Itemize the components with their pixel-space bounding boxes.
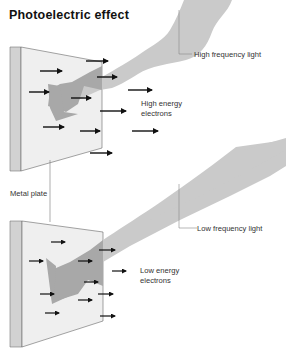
low-frequency-panel bbox=[10, 138, 286, 347]
low-frequency-light-label: Low frequency light bbox=[197, 224, 262, 234]
low-energy-line2: electrons bbox=[140, 276, 179, 286]
high-energy-line1: High energy bbox=[141, 99, 182, 109]
high-energy-electrons-label: High energy electrons bbox=[141, 99, 182, 118]
low-energy-line1: Low energy bbox=[140, 266, 179, 276]
high-frequency-light-label: High frequency light bbox=[194, 50, 261, 60]
metal-plate-label: Metal plate bbox=[10, 189, 47, 199]
high-frequency-panel bbox=[10, 0, 232, 171]
low-energy-electrons-label: Low energy electrons bbox=[140, 266, 179, 285]
high-energy-line2: electrons bbox=[141, 109, 182, 119]
